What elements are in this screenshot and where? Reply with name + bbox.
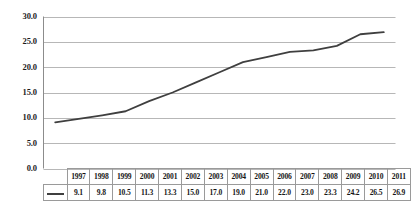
table-year-cell: 2008 <box>319 169 342 185</box>
table-year-cell: 2005 <box>250 169 273 185</box>
table-row-values: 9.19.810.511.313.315.017.019.021.022.023… <box>44 185 411 201</box>
table-value-cell: 26.5 <box>365 185 388 201</box>
data-table: 1997199819992000200120022003200420052006… <box>43 168 411 201</box>
table-year-cell: 2011 <box>387 169 410 185</box>
gridlines <box>44 18 396 170</box>
table-year-cell: 2004 <box>227 169 250 185</box>
table-value-cell: 21.0 <box>250 185 273 201</box>
table-value-cell: 11.3 <box>136 185 159 201</box>
table-value-cell: 23.3 <box>319 185 342 201</box>
table-year-cell: 2006 <box>273 169 296 185</box>
table-year-cell: 2007 <box>296 169 319 185</box>
legend-swatch-cell <box>44 185 68 201</box>
line-swatch-icon <box>47 193 64 195</box>
table-value-cell: 22.0 <box>273 185 296 201</box>
table-year-cell: 2010 <box>365 169 388 185</box>
table-value-cell: 19.0 <box>227 185 250 201</box>
table-row-years: 1997199819992000200120022003200420052006… <box>44 169 411 185</box>
table-value-cell: 23.0 <box>296 185 319 201</box>
line-chart-with-data-table: 30.0 25.0 20.0 15.0 10.0 5.0 0.0 1997199… <box>0 0 413 210</box>
chart-canvas <box>0 0 413 172</box>
table-year-cell: 1998 <box>90 169 113 185</box>
plot-area: 30.0 25.0 20.0 15.0 10.0 5.0 0.0 <box>0 0 413 172</box>
table-value-cell: 9.8 <box>90 185 113 201</box>
table-value-cell: 13.3 <box>159 185 182 201</box>
table-year-cell: 2009 <box>342 169 365 185</box>
table-value-cell: 17.0 <box>204 185 227 201</box>
table-year-cell: 2002 <box>181 169 204 185</box>
data-series-line <box>55 32 384 122</box>
table-year-cell: 2003 <box>204 169 227 185</box>
table-corner-cell <box>44 169 68 185</box>
table-value-cell: 15.0 <box>181 185 204 201</box>
table-value-cell: 26.9 <box>387 185 410 201</box>
table-value-cell: 24.2 <box>342 185 365 201</box>
table-year-cell: 2000 <box>136 169 159 185</box>
table-year-cell: 1997 <box>67 169 90 185</box>
data-table-container: 1997199819992000200120022003200420052006… <box>43 168 395 201</box>
table-year-cell: 2001 <box>159 169 182 185</box>
table-value-cell: 9.1 <box>67 185 90 201</box>
table-year-cell: 1999 <box>113 169 136 185</box>
table-value-cell: 10.5 <box>113 185 136 201</box>
